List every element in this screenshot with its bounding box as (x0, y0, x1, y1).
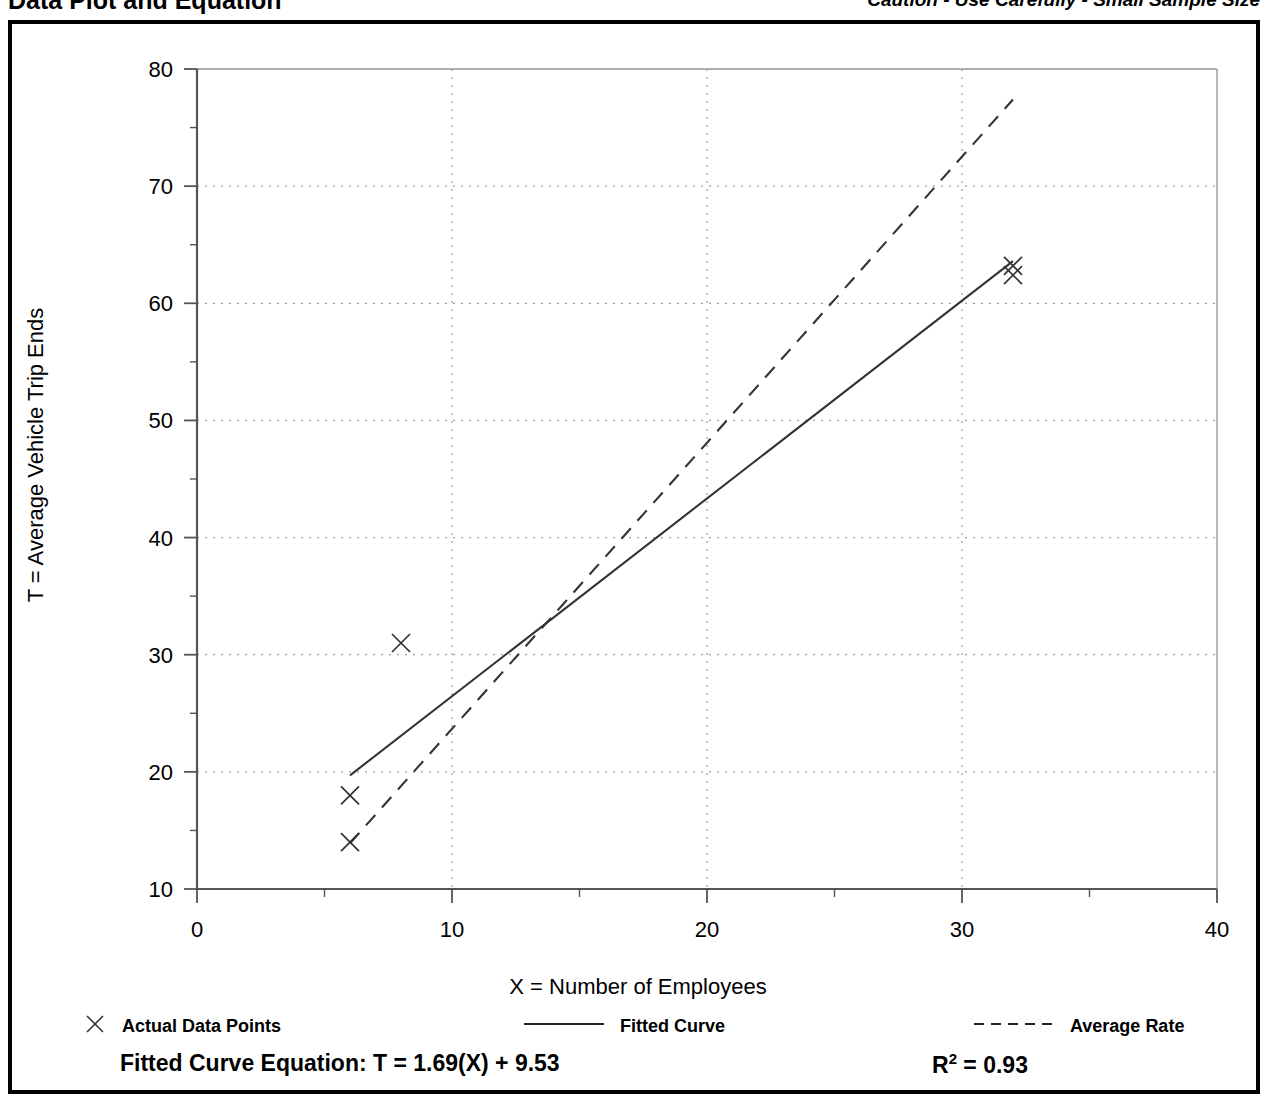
fitted-curve-equation: Fitted Curve Equation: T = 1.69(X) + 9.5… (120, 1050, 560, 1077)
data-point-marker (392, 634, 410, 652)
r-squared-value: R2 = 0.93 (932, 1050, 1028, 1079)
chart-frame: 1020304050607080010203040 T = Average Ve… (8, 20, 1260, 1094)
fitted-curve-line (350, 261, 1013, 775)
chart-plot-area: 1020304050607080010203040 (12, 24, 1264, 969)
x-axis-title: X = Number of Employees (12, 974, 1264, 1000)
page-title: Data Plot and Equation (8, 0, 282, 15)
axes (184, 69, 1217, 903)
caution-note: Caution - Use Carefully - Small Sample S… (867, 0, 1260, 11)
y-tick-label: 20 (149, 760, 173, 785)
legend-item-average-rate: Average Rate (972, 1009, 1184, 1043)
solid-line-icon (522, 1017, 606, 1035)
y-tick-label: 70 (149, 174, 173, 199)
y-tick-label: 30 (149, 643, 173, 668)
equation-row: Fitted Curve Equation: T = 1.69(X) + 9.5… (12, 1046, 1264, 1090)
y-axis-title: T = Average Vehicle Trip Ends (23, 245, 49, 665)
y-tick-label: 50 (149, 408, 173, 433)
x-tick-label: 0 (191, 917, 203, 942)
x-tick-label: 30 (950, 917, 974, 942)
legend-label-actual-data-points: Actual Data Points (122, 1016, 281, 1037)
x-marker-icon (82, 1011, 108, 1041)
data-point-marker (341, 786, 359, 804)
tick-labels: 1020304050607080010203040 (149, 57, 1230, 942)
legend-label-average-rate: Average Rate (1070, 1016, 1184, 1037)
y-tick-label: 10 (149, 877, 173, 902)
data-point-marker (1004, 266, 1022, 284)
x-tick-label: 10 (440, 917, 464, 942)
legend-label-fitted-curve: Fitted Curve (620, 1016, 725, 1037)
y-tick-label: 80 (149, 57, 173, 82)
legend-item-actual-data-points: Actual Data Points (82, 1009, 281, 1043)
dashed-line-icon (972, 1017, 1056, 1035)
x-tick-label: 40 (1205, 917, 1229, 942)
y-tick-label: 60 (149, 291, 173, 316)
legend-item-fitted-curve: Fitted Curve (522, 1009, 725, 1043)
data-series (341, 99, 1022, 851)
grid-lines (197, 69, 1217, 889)
r-squared-prefix: R (932, 1052, 949, 1078)
r-squared-number: = 0.93 (957, 1052, 1028, 1078)
r-squared-exponent: 2 (949, 1050, 957, 1067)
header-strip: Data Plot and Equation Caution - Use Car… (0, 0, 1270, 16)
x-tick-label: 20 (695, 917, 719, 942)
chart-legend: Actual Data Points Fitted Curve Average … (12, 1009, 1264, 1043)
y-tick-label: 40 (149, 526, 173, 551)
average-rate-line (350, 99, 1013, 843)
